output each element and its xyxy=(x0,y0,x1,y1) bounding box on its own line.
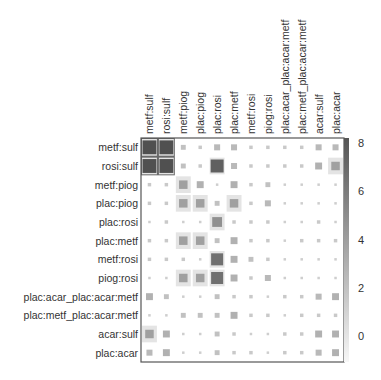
heatmap-cell xyxy=(145,330,153,338)
heatmap-cell xyxy=(317,183,319,185)
heatmap-cell xyxy=(230,199,238,207)
row-label: plac:piog xyxy=(96,197,138,209)
heatmap-cell xyxy=(143,140,157,154)
heatmap-cell xyxy=(300,146,303,149)
heatmap-cell xyxy=(181,313,186,318)
heatmap-cell xyxy=(300,258,302,260)
heatmap-cell xyxy=(249,183,252,186)
heatmap-cell xyxy=(198,146,201,149)
heatmap-cell xyxy=(300,314,303,317)
heatmap-cell xyxy=(284,221,286,223)
heatmap-cell xyxy=(300,332,303,335)
heatmap-cell xyxy=(266,239,269,242)
column-label: piog:rosi xyxy=(262,94,274,134)
heatmap-cell xyxy=(165,183,168,186)
heatmap-cell xyxy=(215,332,220,337)
heatmap-cell xyxy=(232,295,235,298)
heatmap-cell xyxy=(148,258,151,261)
heatmap-cell xyxy=(143,159,157,173)
heatmap-cell xyxy=(267,351,269,353)
heatmap-cell xyxy=(146,350,152,356)
row-label: metf:sulf xyxy=(98,141,138,153)
heatmap-cell xyxy=(231,181,238,188)
heatmap-cell xyxy=(231,275,238,282)
heatmap-cell xyxy=(212,217,222,227)
heatmap-cell xyxy=(231,312,238,319)
heatmap-cell xyxy=(181,164,186,169)
heatmap-cell xyxy=(265,182,270,187)
heatmap-cell xyxy=(331,162,339,170)
column-label: metf:piog xyxy=(177,91,189,134)
heatmap-cell xyxy=(215,350,220,355)
heatmap-cell xyxy=(316,144,322,150)
heatmap-cell xyxy=(211,253,223,265)
heatmap-cell xyxy=(315,163,322,170)
column-label: plac:rosi xyxy=(211,95,223,134)
heatmap-cell xyxy=(333,144,339,150)
heatmap-cell xyxy=(199,351,201,353)
heatmap-cell xyxy=(265,275,271,281)
heatmap-cell xyxy=(182,351,184,353)
heatmap-cell xyxy=(165,220,168,223)
heatmap-cell xyxy=(316,350,322,356)
heatmap-cell xyxy=(199,221,201,223)
heatmap-cell xyxy=(300,221,302,223)
heatmap-cell xyxy=(159,159,173,173)
heatmap-cell xyxy=(215,294,220,299)
column-label: metf:rosi xyxy=(245,94,257,134)
heatmap-cell xyxy=(249,202,252,205)
heatmap-cell xyxy=(216,183,218,185)
heatmap-cell xyxy=(284,239,286,241)
heatmap-cell xyxy=(231,144,237,150)
heatmap-cell xyxy=(250,333,252,335)
heatmap-cell xyxy=(182,258,185,261)
heatmap-cell xyxy=(148,277,150,279)
heatmap-cell xyxy=(249,295,252,298)
column-label: plac:acar xyxy=(330,91,342,134)
heatmap-cell xyxy=(215,238,220,243)
heatmap-cell xyxy=(181,145,186,150)
heatmap-cell xyxy=(249,220,252,223)
heatmap-cell xyxy=(231,163,237,169)
row-label: piog:rosi xyxy=(98,272,138,284)
heatmap-cell xyxy=(215,313,220,318)
heatmap-cell xyxy=(265,200,271,206)
heatmap-cell xyxy=(317,258,319,260)
row-label: plac:rosi xyxy=(99,216,138,228)
heatmap-cell xyxy=(215,201,220,206)
heatmap-cell xyxy=(165,239,168,242)
heatmap-cell xyxy=(165,314,167,316)
heatmap-cell xyxy=(284,202,286,204)
heatmap-cell xyxy=(334,183,336,185)
heatmap-plot xyxy=(0,0,381,380)
heatmap-cell xyxy=(199,333,201,335)
row-label: metf:piog xyxy=(95,179,138,191)
heatmap-cell xyxy=(300,277,302,279)
column-label: metf:sulf xyxy=(143,94,155,134)
heatmap-chart: metf:sulfrosi:sulfmetf:piogplac:piogplac… xyxy=(0,0,381,380)
heatmap-cell xyxy=(196,274,204,282)
heatmap-cell xyxy=(283,351,286,354)
heatmap-cell xyxy=(198,164,201,167)
heatmap-cell xyxy=(165,277,167,279)
heatmap-cell xyxy=(266,164,269,167)
heatmap-cell xyxy=(334,221,336,223)
heatmap-cell xyxy=(334,277,336,279)
heatmap-cell xyxy=(148,239,151,242)
column-label: plac:acar_plac:acar:metf xyxy=(279,20,291,134)
heatmap-cell xyxy=(196,199,204,207)
heatmap-cell xyxy=(332,293,339,300)
heatmap-cell xyxy=(334,314,337,317)
heatmap-cell xyxy=(317,277,319,279)
heatmap-cell xyxy=(165,202,168,205)
heatmap-cell xyxy=(283,146,286,149)
heatmap-cell xyxy=(249,351,252,354)
heatmap-cell xyxy=(317,239,320,242)
heatmap-cell xyxy=(334,239,337,242)
heatmap-cell xyxy=(182,221,184,223)
heatmap-cell xyxy=(267,333,269,335)
heatmap-cell xyxy=(211,272,223,284)
heatmap-cell xyxy=(159,140,173,154)
heatmap-cell xyxy=(266,146,269,149)
heatmap-cell xyxy=(267,295,269,297)
